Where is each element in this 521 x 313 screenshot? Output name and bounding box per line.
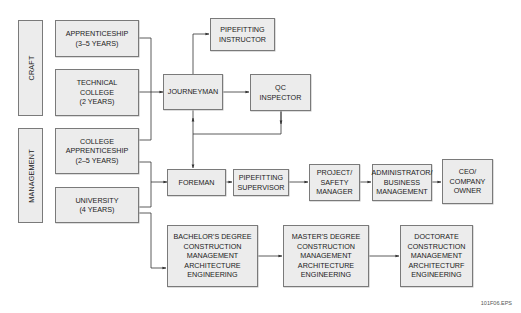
node-foreman: FOREMAN [167, 169, 226, 196]
group-management: MANAGEMENT [18, 128, 43, 223]
node-project-safety-manager: PROJECT/ SAFETY MANAGER [309, 164, 360, 201]
node-ceo: CEO/ COMPANY OWNER [442, 159, 493, 204]
node-technical-college: TECHNICAL COLLEGE (2 YEARS) [55, 69, 139, 116]
node-masters-degree: MASTER'S DEGREE CONSTRUCTION MANAGEMENT … [283, 225, 369, 287]
node-journeyman: JOURNEYMAN [163, 74, 223, 110]
node-university: UNIVERSITY (4 YEARS) [55, 187, 139, 223]
node-bachelors-degree: BACHELOR'S DEGREE CONSTRUCTION MANAGEMEN… [167, 225, 258, 287]
node-apprenticeship: APPRENTICESHIP (3–5 YEARS) [55, 20, 139, 57]
node-doctorate: DOCTORATE CONSTRUCTION MANAGEMENT ARCHIT… [400, 225, 473, 287]
node-pipefitting-supervisor: PIPEFITTING SUPERVISOR [233, 169, 289, 196]
node-administrator: ADMINISTRATOR/ BUSINESS MANAGEMENT [372, 164, 432, 201]
node-qc-inspector: QC INSPECTOR [250, 74, 311, 111]
node-college-apprenticeship: COLLEGE APPRENTICESHIP (2–5 YEARS) [55, 128, 139, 174]
figure-id: 101F06.EPS [481, 300, 512, 306]
group-craft: CRAFT [18, 20, 43, 116]
group-label: MANAGEMENT [26, 149, 35, 203]
node-pipefitting-instructor: PIPEFITTING INSTRUCTOR [210, 18, 275, 51]
group-label: CRAFT [26, 56, 35, 81]
